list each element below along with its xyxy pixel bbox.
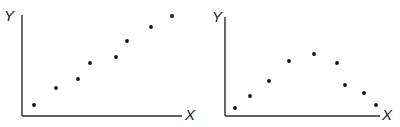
data-point bbox=[76, 77, 80, 81]
data-point bbox=[362, 91, 366, 95]
y-axis-label: Y bbox=[212, 8, 223, 25]
data-point bbox=[54, 86, 58, 90]
data-point bbox=[248, 94, 252, 98]
data-point bbox=[374, 103, 378, 107]
data-point bbox=[267, 79, 271, 83]
scatter-chart-linear: Y X bbox=[4, 7, 196, 123]
x-axis-label: X bbox=[381, 106, 393, 123]
y-axis-label: Y bbox=[4, 7, 15, 24]
data-point bbox=[114, 55, 118, 59]
data-point bbox=[335, 61, 339, 65]
scatter-plot-figure: Y X Y X bbox=[0, 0, 400, 127]
data-point bbox=[343, 83, 347, 87]
data-point bbox=[125, 39, 129, 43]
data-point bbox=[287, 59, 291, 63]
data-point bbox=[312, 52, 316, 56]
data-point bbox=[233, 106, 237, 110]
data-point bbox=[149, 25, 153, 29]
data-points bbox=[32, 14, 174, 107]
data-points bbox=[233, 52, 378, 110]
scatter-chart-inverted-u: Y X bbox=[212, 8, 393, 123]
data-point bbox=[88, 61, 92, 65]
x-axis-label: X bbox=[184, 106, 196, 123]
data-point bbox=[32, 103, 36, 107]
data-point bbox=[170, 14, 174, 18]
